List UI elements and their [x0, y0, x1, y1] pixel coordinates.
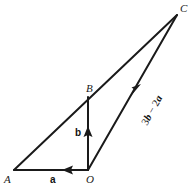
segment-o-to-c [88, 15, 177, 170]
vector-label-a: a [50, 175, 56, 185]
vertex-label-a: A [4, 174, 11, 185]
vertex-label-c: C [180, 3, 187, 14]
segment-a-to-c [14, 15, 177, 170]
vector-diagram-canvas [0, 0, 196, 191]
vertex-label-o: O [86, 174, 94, 185]
vector-label-b: b [75, 128, 81, 138]
vertex-label-b: B [86, 83, 93, 94]
